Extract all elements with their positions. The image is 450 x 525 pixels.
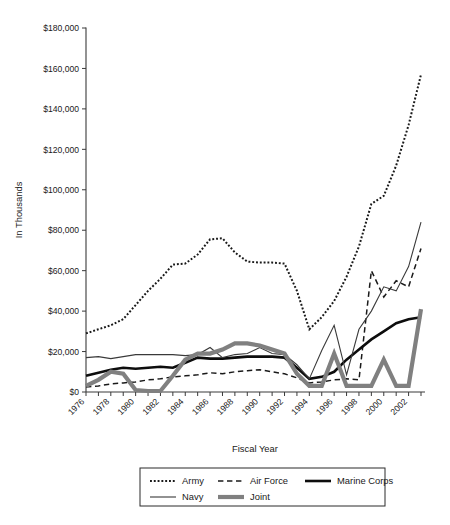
legend-label-navy: Navy xyxy=(182,491,204,502)
y-tick-label: $100,000 xyxy=(43,185,79,195)
y-tick-label: $180,000 xyxy=(43,23,79,33)
y-tick-label: $120,000 xyxy=(43,145,79,155)
series-line-marine-corps xyxy=(86,317,421,379)
y-axis: $0$20,000$40,000$60,000$80,000$100,000$1… xyxy=(13,23,86,397)
x-tick-label: 1996 xyxy=(314,396,335,417)
x-axis: 1976197819801982198419861988199019921994… xyxy=(66,392,425,454)
y-tick-label: $160,000 xyxy=(43,64,79,74)
x-tick-label: 1992 xyxy=(264,396,285,417)
y-tick-label: $20,000 xyxy=(48,347,79,357)
y-tick-label: $60,000 xyxy=(48,266,79,276)
legend-label-marine-corps: Marine Corps xyxy=(337,475,394,486)
x-tick-label: 1986 xyxy=(190,396,211,417)
x-tick-label: 1980 xyxy=(115,396,136,417)
x-tick-label: 1984 xyxy=(165,396,186,417)
y-tick-label: $0 xyxy=(69,387,79,397)
legend-label-army: Army xyxy=(182,475,204,486)
y-tick-label: $140,000 xyxy=(43,104,79,114)
y-tick-label: $40,000 xyxy=(48,306,79,316)
series-group xyxy=(86,75,421,391)
series-line-army xyxy=(86,75,421,334)
x-tick-label: 1982 xyxy=(140,396,161,417)
x-tick-label: 1998 xyxy=(339,396,360,417)
x-tick-label: 2002 xyxy=(388,396,409,417)
x-tick-label: 1994 xyxy=(289,396,310,417)
x-axis-title: Fiscal Year xyxy=(232,443,278,454)
x-tick-label: 1988 xyxy=(215,396,236,417)
chart-container: $0$20,000$40,000$60,000$80,000$100,000$1… xyxy=(0,0,450,525)
x-tick-label: 2000 xyxy=(364,396,385,417)
x-tick-label: 1978 xyxy=(91,396,112,417)
y-axis-title: In Thousands xyxy=(13,181,24,238)
line-chart: $0$20,000$40,000$60,000$80,000$100,000$1… xyxy=(0,0,450,525)
y-tick-label: $80,000 xyxy=(48,225,79,235)
x-tick-label: 1990 xyxy=(240,396,261,417)
series-line-air-force xyxy=(86,248,421,387)
legend: ArmyAir ForceMarine CorpsNavyJoint xyxy=(140,468,394,506)
legend-label-joint: Joint xyxy=(250,491,270,502)
x-tick-label: 1976 xyxy=(66,396,87,417)
legend-label-air-force: Air Force xyxy=(250,475,288,486)
